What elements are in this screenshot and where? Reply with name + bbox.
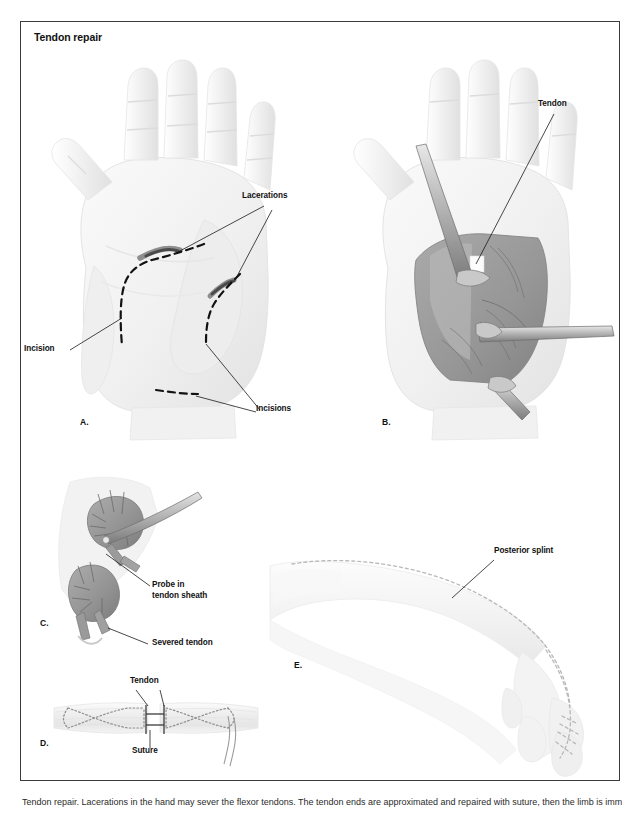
label-probe-line2: tendon sheath xyxy=(152,591,207,602)
figure-title: Tendon repair xyxy=(34,31,102,43)
figure-caption-text: Tendon repair. Lacerations in the hand m… xyxy=(22,798,622,808)
panel-e: Posterior splint E. xyxy=(270,520,620,780)
leader-lines-e xyxy=(452,560,494,598)
panel-d: Tendon Suture D. xyxy=(32,672,282,777)
label-posterior-splint: Posterior splint xyxy=(494,546,553,557)
label-suture: Suture xyxy=(132,746,158,757)
label-incision: Incision xyxy=(24,344,55,355)
label-incisions: Incisions xyxy=(256,404,291,415)
label-severed-tendon: Severed tendon xyxy=(152,638,213,649)
label-probe-line1: Probe in xyxy=(152,580,184,591)
surgical-field xyxy=(415,234,548,384)
severed-tendon-stump xyxy=(69,562,120,644)
arm-silhouette xyxy=(270,561,584,776)
panel-letter-a: A. xyxy=(80,417,89,427)
panel-c: Probe in tendon sheath Severed tendon C. xyxy=(32,470,282,670)
panel-letter-d: D. xyxy=(40,738,49,748)
panel-letter-e: E. xyxy=(294,660,302,670)
panel-letter-b: B. xyxy=(382,417,391,427)
label-lacerations: Lacerations xyxy=(242,191,287,202)
panel-b: Tendon B. xyxy=(330,60,620,440)
panel-letter-c: C. xyxy=(40,618,49,628)
panel-b-illustration xyxy=(330,60,620,440)
label-tendon-b: Tendon xyxy=(538,99,567,110)
panel-d-illustration xyxy=(32,672,282,777)
tendon-band xyxy=(54,703,258,733)
panel-a: Lacerations Incision Incisions A. xyxy=(28,60,318,440)
panel-e-illustration xyxy=(270,520,620,780)
label-tendon-d: Tendon xyxy=(130,676,159,687)
panel-a-illustration xyxy=(28,60,318,440)
figure-caption: Tendon repair. Lacerations in the hand m… xyxy=(22,798,622,814)
